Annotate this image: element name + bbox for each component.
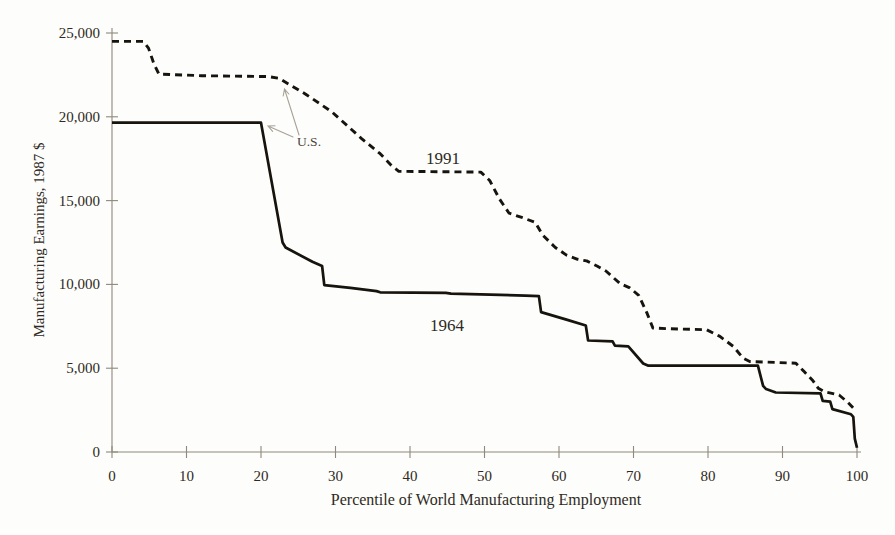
series-label-1964: 1964 <box>430 316 465 335</box>
x-tick-label: 30 <box>328 468 343 484</box>
y-tick-label: 5,000 <box>66 360 100 376</box>
x-tick-label: 60 <box>552 468 567 484</box>
x-tick-label: 90 <box>775 468 790 484</box>
y-axis-title: Manufacturing Earnings, 1987 $ <box>31 142 47 337</box>
x-axis-title: Percentile of World Manufacturing Employ… <box>331 491 642 509</box>
x-tick-label: 10 <box>179 468 194 484</box>
y-tick-label: 0 <box>93 444 101 460</box>
curve-1991 <box>112 41 855 409</box>
x-tick-label: 20 <box>254 468 269 484</box>
y-tick-label: 20,000 <box>59 109 100 125</box>
us-annotation-label: U.S. <box>297 134 321 149</box>
y-tick-label: 15,000 <box>59 193 100 209</box>
us-arrow-to-1991-icon <box>283 89 299 135</box>
us-arrow-to-1964-icon <box>268 126 293 137</box>
y-tick-label: 25,000 <box>59 25 100 41</box>
axes-layer: 010203040506070809010005,00010,00015,000… <box>59 25 869 484</box>
x-tick-label: 0 <box>108 468 116 484</box>
curve-1964 <box>112 123 857 448</box>
figure: 010203040506070809010005,00010,00015,000… <box>0 0 895 535</box>
y-tick-label: 10,000 <box>59 276 100 292</box>
x-tick-label: 70 <box>626 468 641 484</box>
axis-lines <box>112 28 861 452</box>
x-tick-label: 100 <box>846 468 869 484</box>
x-tick-label: 40 <box>403 468 418 484</box>
series-layer <box>112 41 857 447</box>
x-tick-label: 50 <box>477 468 492 484</box>
chart-svg: 010203040506070809010005,00010,00015,000… <box>0 0 895 535</box>
labels-layer: Manufacturing Earnings, 1987 $ Percentil… <box>31 89 642 509</box>
x-tick-label: 80 <box>701 468 716 484</box>
series-label-1991: 1991 <box>426 149 460 168</box>
